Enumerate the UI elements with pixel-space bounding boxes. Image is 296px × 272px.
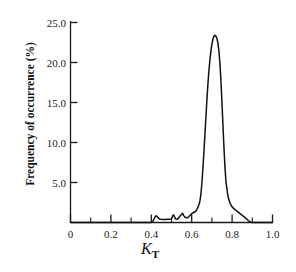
x-tick-label: 0.8: [225, 228, 239, 240]
x-axis-title: KT: [120, 240, 180, 260]
y-tick-label: 15.0: [47, 97, 67, 109]
y-axis-ticks: [71, 23, 78, 183]
x-tick-label: 1.0: [266, 228, 280, 240]
x-axis-title-subscript: T: [152, 248, 159, 260]
x-tick-label: 0.2: [104, 228, 118, 240]
y-tick-label: 20.0: [47, 57, 67, 69]
x-tick-labels: 0 0.2 0.4 0.6 0.8 1.0: [68, 228, 280, 240]
y-tick-labels: 25.0 20.0 15.0 10.0 5.0: [47, 17, 67, 189]
frequency-distribution-curve: [71, 35, 273, 222]
y-tick-label: 5.0: [52, 177, 66, 189]
chart-figure: 25.0 20.0 15.0 10.0 5.0 0 0.2 0.4 0.6 0.…: [0, 0, 296, 272]
chart-plot-area: 25.0 20.0 15.0 10.0 5.0 0 0.2 0.4 0.6 0.…: [0, 0, 296, 272]
x-tick-label: 0: [68, 228, 74, 240]
y-axis-title: Frequency of occurrence (%): [24, 22, 36, 207]
x-tick-label: 0.4: [144, 228, 158, 240]
x-axis-title-base: K: [141, 240, 152, 257]
x-tick-label: 0.6: [185, 228, 199, 240]
y-tick-label: 25.0: [47, 17, 67, 29]
y-tick-label: 10.0: [47, 137, 67, 149]
